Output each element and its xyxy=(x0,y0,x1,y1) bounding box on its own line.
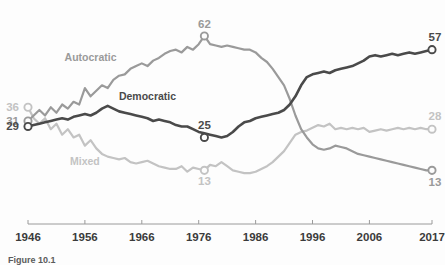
x-axis-tick-label-1966: 1966 xyxy=(129,231,155,243)
value-label-mixed-36: 36 xyxy=(6,101,19,113)
data-point-marker xyxy=(201,32,208,39)
regime-types-line-chart: 361328316213292557 DemocraticAutocraticM… xyxy=(0,0,445,265)
series-label-autocratic: Autocratic xyxy=(65,51,117,63)
data-point-marker xyxy=(24,104,31,111)
figure-caption: Figure 10.1 xyxy=(8,255,56,265)
value-label-autocratic-62: 62 xyxy=(198,18,211,30)
x-axis-tick-label-2017: 2017 xyxy=(419,231,445,243)
x-axis-tick-label-1986: 1986 xyxy=(243,231,269,243)
value-label-mixed-28: 28 xyxy=(429,110,442,122)
data-point-marker xyxy=(201,167,208,174)
value-label-democratic-29: 29 xyxy=(6,120,19,132)
x-axis-tick-label-1996: 1996 xyxy=(300,231,326,243)
chart-figure: 361328316213292557 DemocraticAutocraticM… xyxy=(0,0,445,265)
data-point-marker xyxy=(24,123,31,130)
data-point-marker xyxy=(428,46,435,53)
x-axis-tick-label-1946: 1946 xyxy=(15,231,41,243)
value-label-mixed-13: 13 xyxy=(198,175,211,187)
data-point-marker xyxy=(201,134,208,141)
series-label-mixed: Mixed xyxy=(70,155,100,167)
value-label-democratic-57: 57 xyxy=(429,31,442,43)
x-axis-tick-label-1956: 1956 xyxy=(72,231,98,243)
x-axis-tick-label-2006: 2006 xyxy=(357,231,383,243)
x-axis-tick-label-1976: 1976 xyxy=(186,231,212,243)
data-point-marker xyxy=(428,126,435,133)
value-label-democratic-25: 25 xyxy=(198,119,211,131)
value-label-autocratic-13: 13 xyxy=(429,176,442,188)
series-label-democratic: Democratic xyxy=(119,90,176,102)
data-point-marker xyxy=(428,167,435,174)
chart-background xyxy=(0,0,445,265)
